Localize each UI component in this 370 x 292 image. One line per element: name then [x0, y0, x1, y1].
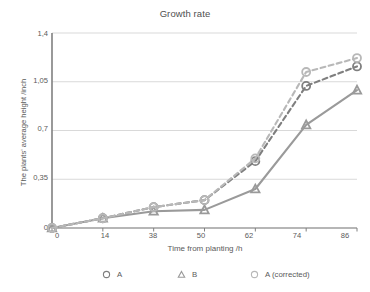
- data-point-marker: [353, 86, 361, 94]
- legend-item-a: A: [101, 269, 122, 280]
- data-point-marker: [200, 205, 208, 213]
- data-point-marker: [302, 82, 310, 90]
- data-point-marker: [353, 54, 361, 62]
- circle-marker-icon: [101, 269, 112, 280]
- x-axis-title: Time from planting /h: [45, 244, 365, 253]
- data-point-marker: [251, 154, 259, 162]
- data-point-marker: [353, 62, 361, 70]
- data-point-marker: [99, 214, 107, 222]
- legend-label: B: [192, 270, 197, 279]
- data-point-marker: [201, 196, 209, 204]
- triangle-marker-icon: [176, 269, 187, 280]
- data-point-marker: [150, 203, 158, 211]
- legend-item-a-corrected: A (corrected): [249, 269, 310, 280]
- data-point-marker: [302, 68, 310, 76]
- series-layer: [48, 54, 361, 232]
- chart-legend: A B A (corrected): [0, 266, 370, 286]
- legend-label: A: [117, 270, 122, 279]
- legend-label: A (corrected): [265, 270, 310, 279]
- data-point-marker: [48, 224, 56, 232]
- growth-rate-chart: Growth rate The plants' average height /…: [0, 0, 370, 292]
- legend-item-b: B: [176, 269, 197, 280]
- circle-marker-icon: [249, 269, 260, 280]
- series-b: [48, 86, 361, 232]
